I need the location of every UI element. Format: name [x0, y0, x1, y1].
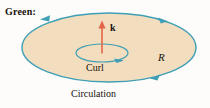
greens-theorem-figure: Green: k R Curl Circulation [0, 0, 210, 108]
circulation-label: Circulation [71, 89, 116, 99]
boundary-arrowhead-top-left [40, 15, 50, 21]
region-R-label: R [158, 52, 165, 63]
figure-title-label: Green: [5, 7, 36, 17]
curl-label: Curl [86, 63, 104, 73]
k-vector-label: k [110, 23, 116, 33]
region-R-ellipse [22, 13, 196, 82]
